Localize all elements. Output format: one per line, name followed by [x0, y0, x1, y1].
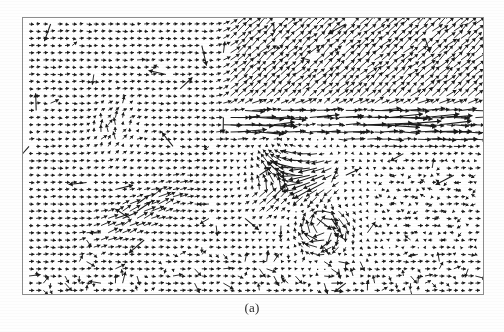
figure-caption: (a)	[0, 300, 504, 316]
vector-field-plot-frame	[22, 17, 484, 295]
vector-field-canvas	[23, 18, 483, 294]
figure-root: (a)	[0, 0, 504, 332]
